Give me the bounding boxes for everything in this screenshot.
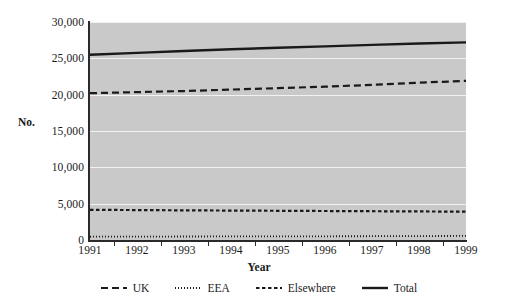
x-axis-title: Year [0, 261, 518, 273]
y-axis-tick-label: 30,000 [52, 16, 84, 28]
x-axis-line [88, 240, 467, 242]
x-axis-tick-label: 1991 [78, 244, 101, 256]
legend-label: EEA [207, 282, 229, 294]
x-axis-tick-label: 1999 [454, 244, 477, 256]
line-chart: 30,00025,00020,00015,00010,0005,0000 No.… [0, 0, 518, 306]
plot-area [90, 22, 466, 240]
y-axis-tick-label: 15,000 [52, 125, 84, 137]
legend-item-total[interactable]: Total [362, 282, 417, 294]
x-axis-tick-mark [443, 241, 444, 246]
x-axis-tick-label: 1994 [219, 244, 242, 256]
chart-legend: UKEEAElsewhereTotal [0, 282, 518, 294]
legend-swatch-eea-icon [175, 283, 201, 293]
x-axis-tick-mark [396, 241, 397, 246]
x-axis-tick-label: 1997 [360, 244, 383, 256]
y-axis-title: No. [18, 116, 35, 128]
x-axis-tick-mark [208, 241, 209, 246]
series-line-total [90, 42, 466, 54]
series-lines [90, 22, 466, 240]
series-line-elsewhere [90, 210, 466, 212]
y-axis-tick-label: 20,000 [52, 89, 84, 101]
legend-label: Elsewhere [288, 282, 336, 294]
x-axis-tick-mark [161, 241, 162, 246]
x-axis-tick-mark [114, 241, 115, 246]
legend-item-uk[interactable]: UK [101, 282, 150, 294]
x-axis-tick-label: 1992 [125, 244, 148, 256]
y-axis-line [88, 21, 90, 241]
legend-swatch-elsewhere-icon [256, 283, 282, 293]
y-axis-tick-label: 25,000 [52, 52, 84, 64]
legend-label: Total [394, 282, 417, 294]
y-axis-tick-label: 5,000 [58, 198, 84, 210]
series-line-uk [90, 81, 466, 93]
legend-label: UK [133, 282, 150, 294]
x-axis-tick-label: 1995 [266, 244, 289, 256]
x-axis-tick-mark [349, 241, 350, 246]
x-axis-tick-label: 1998 [407, 244, 430, 256]
x-axis-tick-label: 1993 [172, 244, 195, 256]
legend-swatch-uk-icon [101, 283, 127, 293]
legend-swatch-total-icon [362, 283, 388, 293]
series-line-eea [90, 236, 466, 237]
x-axis-tick-label: 1996 [313, 244, 336, 256]
legend-item-elsewhere[interactable]: Elsewhere [256, 282, 336, 294]
y-axis-tick-label: 10,000 [52, 161, 84, 173]
legend-item-eea[interactable]: EEA [175, 282, 229, 294]
x-axis-tick-mark [255, 241, 256, 246]
x-axis-tick-mark [302, 241, 303, 246]
